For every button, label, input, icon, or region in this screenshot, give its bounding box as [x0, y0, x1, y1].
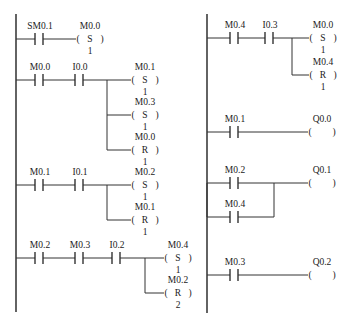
- coil-count: 1: [88, 46, 93, 56]
- coil-right-paren: ): [332, 127, 335, 138]
- coil-label: M0.1: [135, 202, 156, 212]
- contact-no: I0.1: [72, 167, 87, 191]
- coil-label: M0.4: [168, 240, 189, 250]
- contact-label: M0.4: [225, 199, 246, 209]
- contact-no: M0.3: [70, 240, 91, 264]
- coil-left-paren: (: [308, 127, 311, 138]
- coil-count: 1: [143, 227, 148, 237]
- coil-type: S: [142, 75, 147, 85]
- contact-label: M0.4: [225, 20, 246, 30]
- coil-right-paren: ): [155, 75, 158, 86]
- reset-coil: M0.2()R2: [164, 275, 191, 310]
- set-coil: M0.0()S1: [309, 20, 336, 55]
- coil-type: R: [142, 215, 149, 225]
- coil-left-paren: (: [76, 34, 79, 45]
- coil-label: M0.2: [168, 275, 189, 285]
- coil-label: Q0.1: [313, 165, 332, 175]
- coil-right-paren: ): [100, 34, 103, 45]
- coil-count: 1: [143, 157, 148, 167]
- reset-coil: M0.0()R1: [131, 132, 158, 167]
- set-coil: M0.4()S1: [164, 240, 191, 275]
- rung-2: M0.0I0.0M0.1()S1M0.3()S1M0.0()R1: [16, 62, 159, 167]
- rung-8: M0.3Q0.2(): [207, 257, 336, 281]
- coil-right-paren: ): [332, 178, 335, 189]
- coil-type: S: [320, 33, 325, 43]
- coil-count: 1: [143, 192, 148, 202]
- coil-type: R: [320, 70, 327, 80]
- contact-no: I0.3: [262, 20, 277, 44]
- coil-label: M0.2: [135, 167, 156, 177]
- set-coil: M0.3()S1: [131, 97, 158, 132]
- contact-no: M0.2: [30, 240, 51, 264]
- coil-left-paren: (: [131, 75, 134, 86]
- contact-label: M0.1: [225, 114, 246, 124]
- coil-label: Q0.0: [313, 114, 332, 124]
- coil-count: 2: [176, 300, 181, 310]
- contact-no: I0.2: [109, 240, 124, 264]
- coil-right-paren: ): [333, 70, 336, 81]
- coil-label: M0.3: [135, 97, 156, 107]
- reset-coil: M0.4()R1: [309, 57, 336, 92]
- coil-left-paren: (: [309, 33, 312, 44]
- coil-right-paren: ): [188, 253, 191, 264]
- coil-right-paren: ): [188, 288, 191, 299]
- contact-label: M0.1: [30, 167, 51, 177]
- coil-count: 1: [321, 82, 326, 92]
- contact-label: I0.1: [72, 167, 87, 177]
- reset-coil: M0.1()R1: [131, 202, 158, 237]
- coil-left-paren: (: [131, 110, 134, 121]
- coil-count: 1: [143, 87, 148, 97]
- coil-label: M0.0: [135, 132, 156, 142]
- set-coil: M0.1()S1: [131, 62, 158, 97]
- contact-no: SM0.1: [27, 21, 53, 45]
- coil-left-paren: (: [309, 70, 312, 81]
- coil-left-paren: (: [131, 215, 134, 226]
- coil-left-paren: (: [131, 145, 134, 156]
- coil-label: M0.1: [135, 62, 156, 72]
- rung-5: M0.4I0.3M0.0()S1M0.4()R1: [207, 20, 337, 92]
- output-coil: Q0.0(): [308, 114, 335, 138]
- contact-label: M0.2: [225, 165, 246, 175]
- coil-label: M0.4: [313, 57, 334, 67]
- contact-no: M0.1: [30, 167, 51, 191]
- contact-no: M0.1: [225, 114, 246, 138]
- coil-left-paren: (: [308, 178, 311, 189]
- coil-count: 1: [321, 45, 326, 55]
- coil-type: R: [142, 145, 149, 155]
- contact-label: M0.3: [225, 257, 246, 267]
- contact-no: M0.0: [30, 62, 51, 86]
- contact-label: M0.0: [30, 62, 51, 72]
- contact-no: M0.4: [225, 199, 246, 223]
- contact-no: M0.3: [225, 257, 246, 281]
- coil-left-paren: (: [308, 270, 311, 281]
- ladder-diagram: SM0.1M0.0()S1M0.0I0.0M0.1()S1M0.3()S1M0.…: [0, 0, 352, 328]
- rung-3: M0.1I0.1M0.2()S1M0.1()R1: [16, 167, 159, 237]
- coil-label: Q0.2: [313, 257, 332, 267]
- coil-count: 1: [143, 122, 148, 132]
- rung-1: SM0.1M0.0()S1: [16, 21, 104, 56]
- contact-label: I0.3: [262, 20, 277, 30]
- coil-type: R: [175, 288, 182, 298]
- rung-6: M0.1Q0.0(): [207, 114, 336, 138]
- coil-left-paren: (: [131, 180, 134, 191]
- output-coil: Q0.1(): [308, 165, 335, 189]
- coil-right-paren: ): [333, 33, 336, 44]
- output-coil: Q0.2(): [308, 257, 335, 281]
- coil-left-paren: (: [164, 253, 167, 264]
- coil-right-paren: ): [155, 145, 158, 156]
- contact-label: M0.2: [30, 240, 51, 250]
- contact-no: M0.4: [225, 20, 246, 44]
- coil-right-paren: ): [155, 215, 158, 226]
- coil-label: M0.0: [313, 20, 334, 30]
- coil-type: S: [175, 253, 180, 263]
- coil-left-paren: (: [164, 288, 167, 299]
- coil-right-paren: ): [155, 110, 158, 121]
- contact-no: M0.2: [225, 165, 246, 189]
- coil-right-paren: ): [155, 180, 158, 191]
- contact-label: M0.3: [70, 240, 91, 250]
- contact-no: I0.0: [72, 62, 87, 86]
- coil-label: M0.0: [80, 21, 101, 31]
- coil-type: S: [142, 180, 147, 190]
- coil-right-paren: ): [332, 270, 335, 281]
- set-coil: M0.0()S1: [76, 21, 103, 56]
